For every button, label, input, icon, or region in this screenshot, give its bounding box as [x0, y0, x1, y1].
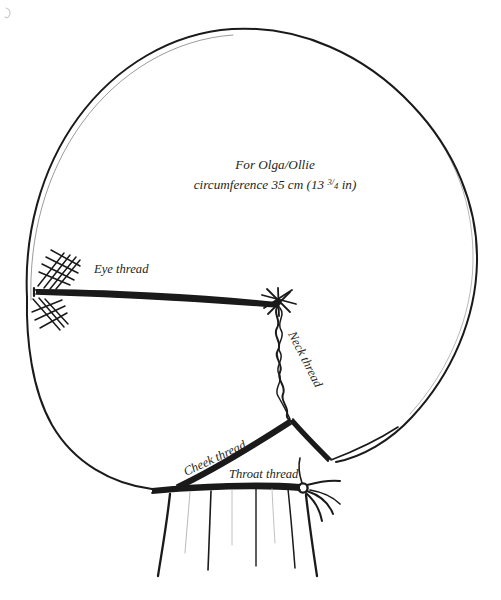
neck-gather-lines: [158, 489, 317, 576]
circumference-suffix: in): [338, 177, 356, 192]
pattern-diagram-page: For Olga/Ollie circumference 35 cm (13 3…: [0, 0, 501, 600]
circumference-text: circumference 35 cm (13: [194, 177, 328, 192]
pattern-title-line2: circumference 35 cm (13 3/4 in): [194, 177, 357, 192]
head-outline: [27, 29, 477, 490]
label-throat-thread: Throat thread: [229, 467, 299, 481]
page-corner-mark: [5, 8, 10, 18]
stitch-crosshatch-upper: [38, 250, 80, 289]
eye-thread-line: [34, 288, 279, 307]
throat-thread-line: [152, 484, 300, 493]
doll-head-pattern-drawing: For Olga/Ollie circumference 35 cm (13 3…: [0, 0, 501, 600]
label-neck-thread: Neck thread: [285, 328, 326, 390]
stitch-crosshatch-lower: [32, 298, 68, 330]
label-eye-thread: Eye thread: [93, 262, 149, 276]
knot-throat-tie-off: [298, 458, 340, 521]
neck-side-connector: [331, 427, 398, 460]
pattern-title-line1: For Olga/Ollie: [234, 157, 315, 172]
neck-thread-line: [276, 306, 291, 421]
